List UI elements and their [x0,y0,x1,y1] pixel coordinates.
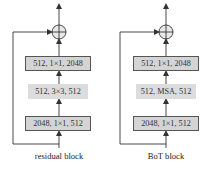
residual-layer-conv1x1-reduce: 2048, 1×1, 512 [25,116,91,131]
residual-layer-conv3x3: 512, 3×3, 512 [28,84,88,99]
bot-layer-conv1x1-reduce: 2048, 1×1, 512 [133,116,199,131]
bot-layer-conv1x1-expand: 512, 1×1, 2048 [133,56,199,71]
bot-block-caption: BoT block [148,151,184,161]
bot-layer-msa: 512, MSA, 512 [136,84,196,99]
residual-block-caption: residual block [35,151,83,161]
residual-layer-conv1x1-expand: 512, 1×1, 2048 [25,56,91,71]
